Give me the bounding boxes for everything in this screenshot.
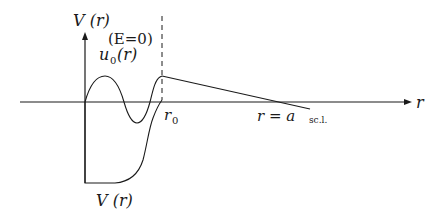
wavefunction-curve — [85, 76, 162, 123]
wavefunction-sub: 0 — [110, 55, 116, 66]
r0-sub: 0 — [172, 115, 178, 126]
x-axis-label: r — [416, 93, 425, 112]
scattering-length-label: r = a — [257, 107, 295, 125]
scattering-length-sub: sc.l. — [309, 115, 327, 125]
r-axis-arrow-icon — [404, 99, 412, 105]
diagram-canvas: V (r) (E=0) u 0 (r) r 0 r r = a sc.l. V … — [0, 0, 435, 217]
potential-curve — [85, 100, 162, 183]
wavefunction-label: u — [99, 45, 109, 64]
wavefunction-arg: (r) — [117, 45, 137, 64]
barrier-curve — [162, 76, 310, 109]
potential-bottom-label: V (r) — [96, 191, 133, 210]
r0-label: r — [164, 106, 172, 124]
v-axis-arrow-icon — [82, 32, 88, 40]
v-axis-label: V (r) — [73, 11, 110, 30]
